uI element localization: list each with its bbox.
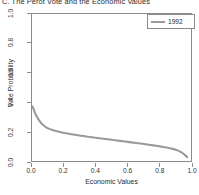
legend-item-1992: 1992 xyxy=(148,15,194,28)
y-tick-mark xyxy=(27,13,31,14)
curve-1992 xyxy=(33,107,188,158)
y-tick-label: 1.0 xyxy=(7,2,14,24)
y-tick-mark xyxy=(27,72,31,73)
x-tick-label: 0.8 xyxy=(148,167,172,174)
x-tick-label: 1.0 xyxy=(180,167,199,174)
y-tick-mark xyxy=(27,132,31,133)
y-tick-label: 0.2 xyxy=(7,121,14,143)
y-axis-title: Vote Probability xyxy=(7,48,15,118)
x-tick-mark xyxy=(127,163,128,167)
x-tick-label: 0.6 xyxy=(116,167,140,174)
legend-item-label: 1992 xyxy=(168,18,183,25)
x-tick-mark xyxy=(192,163,193,167)
chart-title: C. The Perot Vote and the Economic Value… xyxy=(2,0,197,6)
chart-figure: C. The Perot Vote and the Economic Value… xyxy=(0,0,199,195)
x-tick-label: 0.0 xyxy=(19,167,43,174)
chart-legend: 1992 xyxy=(147,14,195,29)
x-tick-mark xyxy=(31,163,32,167)
x-axis-title: Economic Values xyxy=(31,178,192,186)
x-tick-mark xyxy=(63,163,64,167)
x-tick-label: 0.4 xyxy=(83,167,107,174)
legend-line-swatch xyxy=(151,21,165,23)
x-tick-mark xyxy=(159,163,160,167)
y-tick-mark xyxy=(27,42,31,43)
plot-area xyxy=(31,13,192,162)
series-line-1992 xyxy=(32,14,191,161)
y-tick-label: 0.0 xyxy=(7,151,14,173)
x-tick-label: 0.2 xyxy=(51,167,75,174)
y-tick-mark xyxy=(27,102,31,103)
x-tick-mark xyxy=(95,163,96,167)
